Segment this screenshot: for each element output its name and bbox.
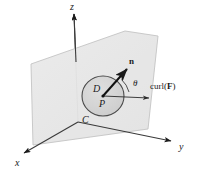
axis-label-z: z (70, 2, 74, 12)
angle-label-theta: θ (133, 79, 137, 88)
region-label-D: D (93, 84, 100, 94)
stokes-theorem-figure: z y x D C P n θ curl(F) (0, 0, 199, 181)
curl-prefix: curl( (150, 81, 167, 91)
axis-label-y: y (179, 142, 183, 152)
curl-label: curl(F) (150, 82, 176, 91)
point-label-P: P (99, 99, 105, 109)
normal-vector-label-n: n (129, 57, 134, 66)
axis-label-x: x (15, 158, 19, 168)
curve-label-C: C (82, 115, 89, 125)
curl-suffix: ) (173, 81, 176, 91)
